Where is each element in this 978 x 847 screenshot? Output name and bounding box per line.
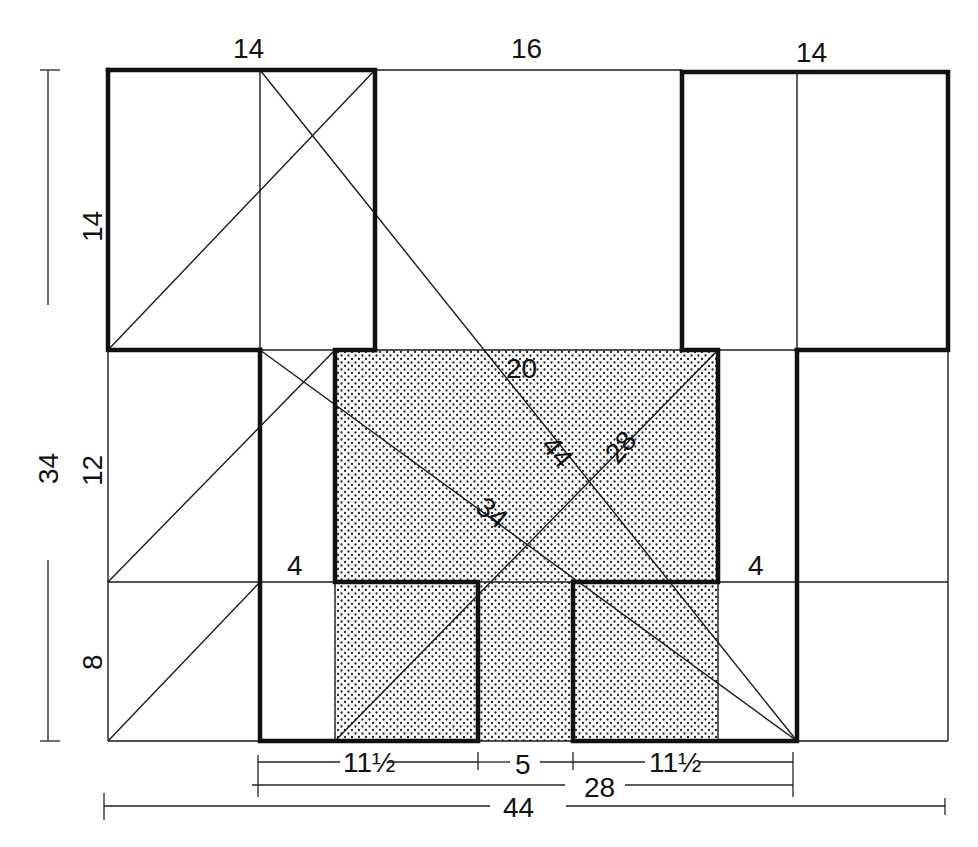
label-left-wing-width: 14: [233, 33, 264, 64]
label-overall-height: 34: [33, 453, 64, 484]
label-left-step: 4: [287, 550, 303, 581]
label-bottom-center-segment: 5: [515, 749, 531, 780]
label-right-step: 4: [748, 550, 764, 581]
label-bottom-right-segment: 11½: [649, 747, 701, 778]
label-center-gap-width: 16: [511, 33, 542, 64]
label-upper-height: 14: [77, 211, 108, 242]
label-court-width: 20: [506, 353, 537, 384]
label-middle-height: 12: [77, 455, 108, 486]
label-lower-height: 8: [77, 654, 108, 670]
plan-diagram: 14 16 14 14 34 12 8 20 44 28 34 4 4 11½ …: [0, 0, 978, 847]
label-overall-total: 44: [503, 792, 534, 823]
label-inner-total: 28: [584, 772, 615, 803]
label-bottom-left-segment: 11½: [343, 747, 395, 778]
label-right-wing-width: 14: [796, 37, 827, 68]
left-dimension-line: [40, 70, 60, 741]
